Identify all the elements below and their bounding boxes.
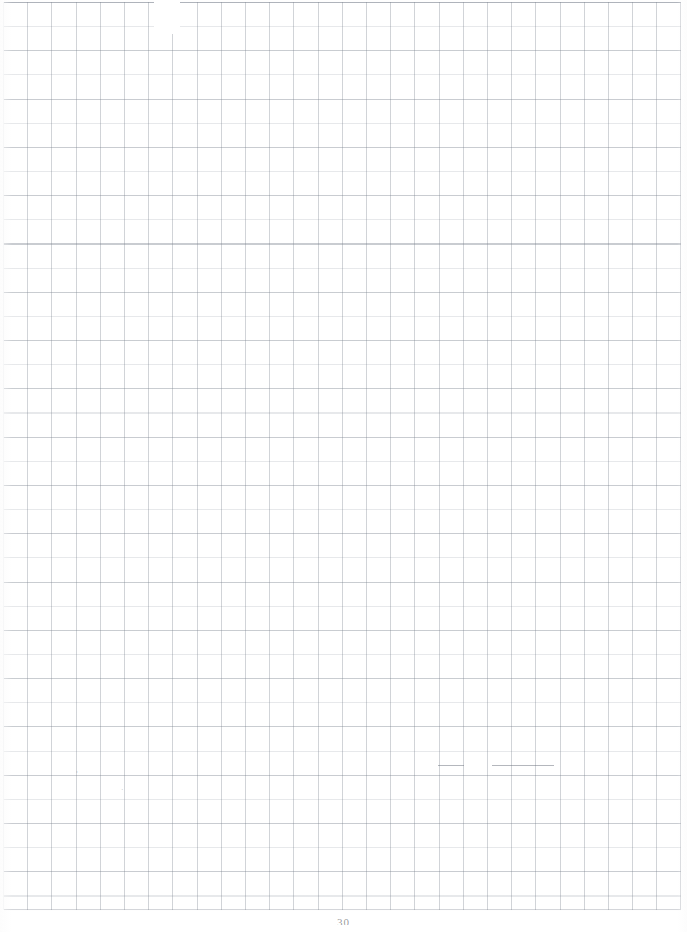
page-number: 30 <box>0 916 687 925</box>
grid-ruling <box>3 2 681 910</box>
scanned-page: ' . 30 <box>0 0 687 932</box>
